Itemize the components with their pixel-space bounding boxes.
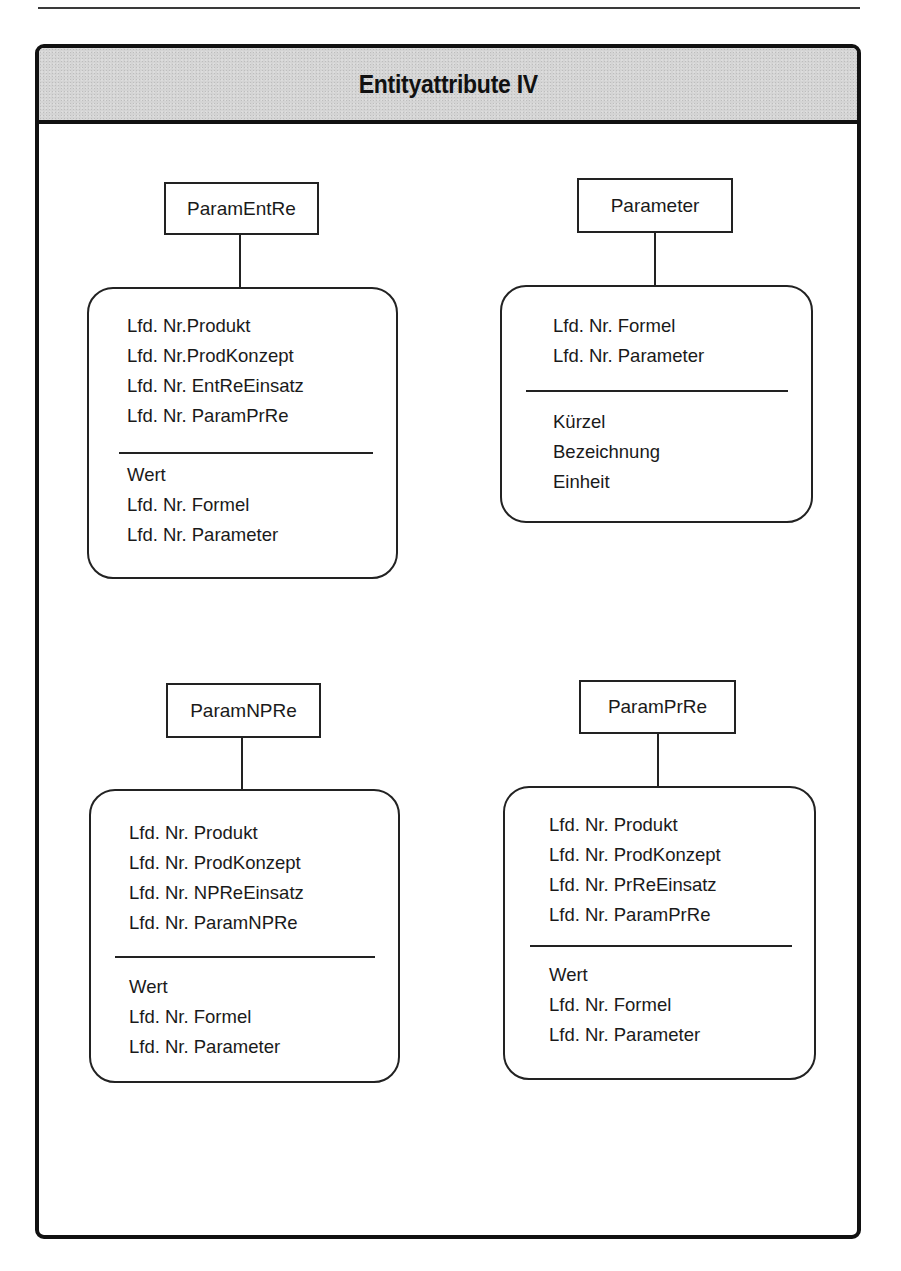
frame-header: Entityattribute IV <box>39 48 857 124</box>
key-divider <box>119 452 373 454</box>
entity-name-box: Parameter <box>577 178 733 233</box>
entity-name: ParamPrRe <box>608 696 707 718</box>
key-attribute: Lfd. Nr.Produkt <box>127 311 396 341</box>
attribute-box: Lfd. Nr. Produkt Lfd. Nr. ProdKonzept Lf… <box>89 789 400 1083</box>
attribute-box: Lfd. Nr. Produkt Lfd. Nr. ProdKonzept Lf… <box>503 786 816 1080</box>
attribute-list: Wert Lfd. Nr. Formel Lfd. Nr. Parameter <box>91 972 398 1062</box>
attribute: Lfd. Nr. Parameter <box>129 1032 398 1062</box>
attribute: Bezeichnung <box>553 437 811 467</box>
attribute: Kürzel <box>553 407 811 437</box>
diagram-title: Entityattribute IV <box>358 70 537 99</box>
attribute-box: Lfd. Nr.Produkt Lfd. Nr.ProdKonzept Lfd.… <box>87 287 398 579</box>
key-attribute-list: Lfd. Nr. Formel Lfd. Nr. Parameter <box>502 311 811 371</box>
attribute-box: Lfd. Nr. Formel Lfd. Nr. Parameter Kürze… <box>500 285 813 523</box>
connector-line <box>654 232 656 286</box>
key-attribute: Lfd. Nr. ProdKonzept <box>129 848 398 878</box>
attribute: Lfd. Nr. Formel <box>129 1002 398 1032</box>
key-attribute: Lfd. Nr. ParamNPRe <box>129 908 398 938</box>
key-attribute: Lfd. Nr. Parameter <box>553 341 811 371</box>
attribute-list: Kürzel Bezeichnung Einheit <box>502 407 811 497</box>
attribute: Lfd. Nr. Parameter <box>549 1020 814 1050</box>
connector-line <box>657 733 659 787</box>
key-attribute: Lfd. Nr. ParamPrRe <box>549 900 814 930</box>
key-attribute: Lfd. Nr. ProdKonzept <box>549 840 814 870</box>
key-attribute: Lfd. Nr. EntReEinsatz <box>127 371 396 401</box>
key-divider <box>530 945 792 947</box>
top-rule-line <box>38 7 860 9</box>
entity-name: ParamNPRe <box>190 700 297 722</box>
key-attribute-list: Lfd. Nr. Produkt Lfd. Nr. ProdKonzept Lf… <box>505 810 814 930</box>
key-divider <box>115 956 375 958</box>
attribute: Wert <box>129 972 398 1002</box>
entity-name: Parameter <box>611 195 700 217</box>
attribute: Lfd. Nr. Parameter <box>127 520 396 550</box>
entity-name-box: ParamEntRe <box>164 182 319 235</box>
key-attribute-list: Lfd. Nr. Produkt Lfd. Nr. ProdKonzept Lf… <box>91 818 398 938</box>
attribute: Einheit <box>553 467 811 497</box>
entity-name-box: ParamPrRe <box>579 680 736 734</box>
key-attribute: Lfd. Nr. ParamPrRe <box>127 401 396 431</box>
connector-line <box>239 234 241 288</box>
entity-name: ParamEntRe <box>187 198 296 220</box>
key-attribute: Lfd. Nr. NPReEinsatz <box>129 878 398 908</box>
attribute: Lfd. Nr. Formel <box>549 990 814 1020</box>
key-attribute: Lfd. Nr. Formel <box>553 311 811 341</box>
attribute: Wert <box>127 460 396 490</box>
key-divider <box>526 390 788 392</box>
attribute: Wert <box>549 960 814 990</box>
entity-name-box: ParamNPRe <box>166 683 321 738</box>
key-attribute: Lfd. Nr. PrReEinsatz <box>549 870 814 900</box>
attribute-list: Wert Lfd. Nr. Formel Lfd. Nr. Parameter <box>505 960 814 1050</box>
key-attribute: Lfd. Nr. Produkt <box>549 810 814 840</box>
key-attribute-list: Lfd. Nr.Produkt Lfd. Nr.ProdKonzept Lfd.… <box>89 311 396 431</box>
attribute: Lfd. Nr. Formel <box>127 490 396 520</box>
attribute-list: Wert Lfd. Nr. Formel Lfd. Nr. Parameter <box>89 460 396 550</box>
connector-line <box>241 737 243 790</box>
key-attribute: Lfd. Nr.ProdKonzept <box>127 341 396 371</box>
key-attribute: Lfd. Nr. Produkt <box>129 818 398 848</box>
